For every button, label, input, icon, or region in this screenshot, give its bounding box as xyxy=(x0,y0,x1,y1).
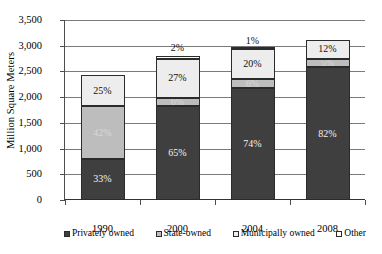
bar-segment-label: 65% xyxy=(168,148,186,158)
y-axis-tick-mark xyxy=(60,46,65,47)
y-axis-tick-mark xyxy=(60,149,65,150)
plot-area: 05001,0001,5002,0002,5003,0003,50033%42%… xyxy=(64,20,364,200)
y-axis-tick-label: 2,500 xyxy=(0,66,42,77)
x-axis-tick-mark xyxy=(65,200,66,205)
bar-segment-muni-1990[interactable]: 25% xyxy=(81,75,125,106)
y-axis-tick-mark xyxy=(60,71,65,72)
bar-segment-state-2004[interactable]: 6% xyxy=(231,79,275,88)
bar-segment-label: 12% xyxy=(318,44,336,54)
bar-segment-label: 25% xyxy=(93,86,111,96)
legend-item-private[interactable]: Privately owned xyxy=(64,229,134,239)
bar-segment-state-2008[interactable]: 5% xyxy=(306,59,350,67)
legend-swatch-muni-icon xyxy=(233,231,239,237)
bar-segment-label: 27% xyxy=(168,73,186,83)
bar-segment-private-2004[interactable]: 74% xyxy=(231,88,275,200)
bar-segment-muni-2008[interactable]: 12% xyxy=(306,40,350,59)
stacked-bar-chart: Million Square Meters 05001,0001,5002,00… xyxy=(0,0,382,254)
bar-2008[interactable]: 82%5%12% xyxy=(306,38,350,200)
y-axis-tick-mark xyxy=(60,97,65,98)
legend-item-label: Municipally owned xyxy=(241,229,315,239)
y-axis-tick-label: 3,000 xyxy=(0,40,42,51)
y-axis-tick-mark xyxy=(60,20,65,21)
bar-segment-label: 82% xyxy=(318,129,336,139)
bar-segment-label-other-2000: 2% xyxy=(148,43,208,53)
y-axis-tick-label: 500 xyxy=(0,169,42,180)
bar-segment-label-other-2004: 1% xyxy=(223,36,283,46)
legend-swatch-state-icon xyxy=(156,231,162,237)
bar-segment-private-2000[interactable]: 65% xyxy=(156,106,200,200)
legend-item-state[interactable]: State-owned xyxy=(156,229,212,239)
bar-segment-other-2000[interactable] xyxy=(156,56,200,59)
bar-segment-label: 5% xyxy=(321,59,334,67)
bar-segment-state-2000[interactable]: 6% xyxy=(156,98,200,107)
y-axis-tick-mark xyxy=(60,174,65,175)
x-axis-tick-mark xyxy=(215,200,216,205)
legend-item-label: State-owned xyxy=(164,229,212,239)
bar-segment-private-2008[interactable]: 82% xyxy=(306,67,350,200)
y-axis-tick-label: 3,500 xyxy=(0,15,42,26)
legend-swatch-other-icon xyxy=(336,231,342,237)
bar-segment-label: 6% xyxy=(246,79,259,88)
gridline xyxy=(65,20,365,21)
bar-1990[interactable]: 33%42%25% xyxy=(81,75,125,200)
bar-segment-private-1990[interactable]: 33% xyxy=(81,159,125,200)
bar-segment-label: 33% xyxy=(93,174,111,184)
bar-segment-muni-2000[interactable]: 27% xyxy=(156,59,200,98)
bar-segment-label: 42% xyxy=(93,128,111,138)
legend-item-label: Other xyxy=(344,229,366,239)
bar-segment-label: 6% xyxy=(171,98,184,107)
y-axis-tick-label: 1,500 xyxy=(0,118,42,129)
bar-segment-state-1990[interactable]: 42% xyxy=(81,106,125,159)
x-axis-tick-mark xyxy=(290,200,291,205)
legend-item-muni[interactable]: Municipally owned xyxy=(233,229,315,239)
plot-wrap: 05001,0001,5002,0002,5003,0003,50033%42%… xyxy=(64,20,364,200)
legend-item-label: Privately owned xyxy=(72,229,134,239)
bar-segment-label: 20% xyxy=(243,59,261,69)
legend-swatch-private-icon xyxy=(64,231,70,237)
y-axis-tick-mark xyxy=(60,123,65,124)
bar-2000[interactable]: 65%6%27% xyxy=(156,56,200,200)
y-axis-tick-label: 1,000 xyxy=(0,143,42,154)
bar-segment-label: 74% xyxy=(243,139,261,149)
bar-segment-other-2004[interactable] xyxy=(231,47,275,49)
bar-segment-muni-2004[interactable]: 20% xyxy=(231,49,275,79)
y-axis-tick-label: 2,000 xyxy=(0,92,42,103)
x-axis-tick-mark xyxy=(140,200,141,205)
x-axis-tick-mark xyxy=(365,200,366,205)
legend-item-other[interactable]: Other xyxy=(336,229,366,239)
bar-2004[interactable]: 74%6%20% xyxy=(231,49,275,200)
y-axis-tick-label: 0 xyxy=(0,195,42,206)
chart-legend: Privately ownedState-ownedMunicipally ow… xyxy=(64,229,366,239)
